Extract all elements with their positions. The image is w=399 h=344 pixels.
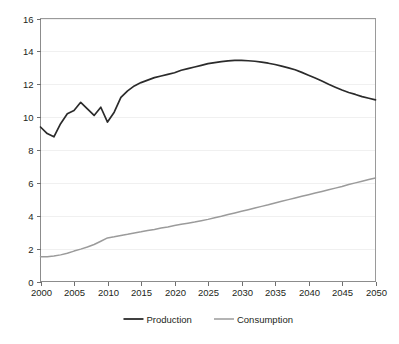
- x-tick-label-2035: 2035: [265, 287, 286, 298]
- x-tick-label-2010: 2010: [98, 287, 119, 298]
- chart-canvas: 0246810121416 20002005201020152020202520…: [0, 0, 399, 344]
- y-tick-label-16: 16: [23, 14, 34, 25]
- y-tick-label-2: 2: [28, 244, 33, 255]
- y-tick-label-12: 12: [23, 79, 34, 90]
- x-tick-label-2045: 2045: [332, 287, 353, 298]
- x-tick-label-2030: 2030: [232, 287, 253, 298]
- x-tick-label-2015: 2015: [131, 287, 152, 298]
- y-tick-label-14: 14: [23, 46, 34, 57]
- legend-label-production: Production: [146, 314, 191, 325]
- x-tick-label-2000: 2000: [31, 287, 52, 298]
- x-tick-label-2020: 2020: [165, 287, 186, 298]
- y-tick-label-8: 8: [28, 145, 33, 156]
- y-tick-label-6: 6: [28, 178, 33, 189]
- x-tick-label-2040: 2040: [299, 287, 320, 298]
- line-chart-figure: 0246810121416 20002005201020152020202520…: [0, 0, 399, 344]
- legend-label-consumption: Consumption: [237, 314, 293, 325]
- x-tick-label-2025: 2025: [198, 287, 219, 298]
- x-tick-label-2050: 2050: [366, 287, 387, 298]
- x-tick-label-2005: 2005: [64, 287, 85, 298]
- y-tick-label-10: 10: [23, 112, 34, 123]
- y-tick-label-4: 4: [28, 211, 33, 222]
